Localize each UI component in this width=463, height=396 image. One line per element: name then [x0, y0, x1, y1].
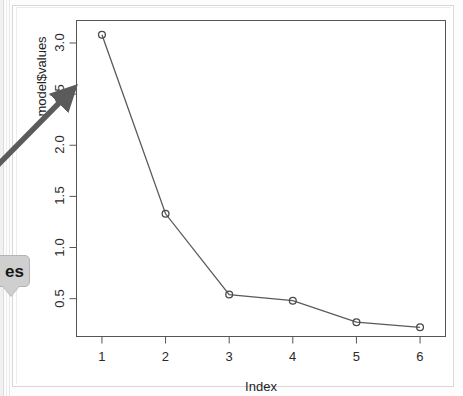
y-tick-label: 1.0 — [51, 230, 66, 264]
y-tick-label: 2.5 — [51, 77, 66, 111]
x-tick-label: 2 — [154, 349, 178, 364]
x-axis-title: Index — [161, 379, 361, 394]
callout-bubble[interactable]: es — [0, 255, 30, 287]
y-tick-label: 2.0 — [51, 128, 66, 162]
y-tick-label: 3.0 — [51, 25, 66, 59]
y-tick-label: 1.5 — [51, 179, 66, 213]
x-axis — [102, 337, 420, 344]
callout-tail — [2, 285, 20, 296]
x-tick-label: 1 — [90, 349, 114, 364]
x-tick-label: 3 — [217, 349, 241, 364]
x-tick-label: 5 — [344, 349, 368, 364]
x-tick-label: 6 — [408, 349, 432, 364]
y-axis-title: model$values — [33, 16, 48, 136]
plot-box — [77, 21, 446, 337]
scree-plot — [0, 0, 463, 396]
callout-text: es — [5, 263, 24, 280]
x-tick-label: 4 — [281, 349, 305, 364]
y-tick-label: 0.5 — [51, 281, 66, 315]
y-axis — [70, 43, 77, 299]
